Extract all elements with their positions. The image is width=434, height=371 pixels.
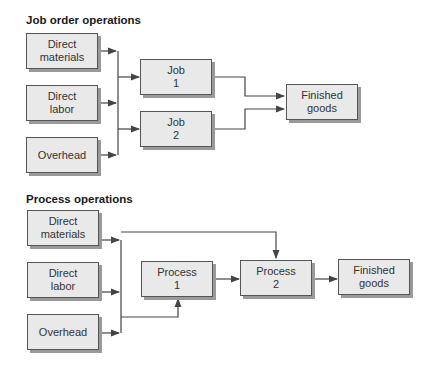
job-order-title: Job order operations [26, 14, 141, 26]
box-label: Direct [49, 215, 78, 228]
box-label: Direct [49, 267, 78, 280]
job-finished-goods-box: Finishedgoods [286, 84, 358, 120]
job-2-box: Job2 [140, 111, 212, 147]
box-label: Direct [48, 90, 77, 103]
box-label: Direct [48, 38, 77, 51]
box-label: Overhead [39, 326, 87, 339]
box-label: Job [167, 64, 185, 77]
job-1-box: Job1 [140, 59, 212, 95]
process-direct-labor-box: Directlabor [27, 262, 99, 298]
box-label: 2 [173, 129, 179, 142]
process-direct-materials-box: Directmaterials [27, 210, 99, 246]
box-label: goods [359, 277, 389, 290]
box-label: Process [256, 265, 296, 278]
process-finished-goods-box: Finishedgoods [338, 259, 410, 295]
box-label: 2 [273, 278, 279, 291]
job-direct-materials-box: Directmaterials [26, 33, 98, 69]
process-title: Process operations [26, 193, 133, 205]
box-label: 1 [174, 279, 180, 292]
box-label: Overhead [38, 149, 86, 162]
box-label: materials [41, 228, 86, 241]
box-label: labor [51, 280, 75, 293]
job-direct-labor-box: Directlabor [26, 85, 98, 121]
box-label: Job [167, 116, 185, 129]
box-label: Finished [353, 264, 395, 277]
process-overhead-box: Overhead [27, 314, 99, 350]
box-label: materials [40, 51, 85, 64]
process-1-box: Process1 [141, 261, 213, 297]
box-label: Process [157, 266, 197, 279]
process-2-box: Process2 [240, 260, 312, 296]
box-label: goods [307, 102, 337, 115]
box-label: Finished [301, 89, 343, 102]
job-overhead-box: Overhead [26, 137, 98, 173]
box-label: labor [50, 103, 74, 116]
box-label: 1 [173, 77, 179, 90]
